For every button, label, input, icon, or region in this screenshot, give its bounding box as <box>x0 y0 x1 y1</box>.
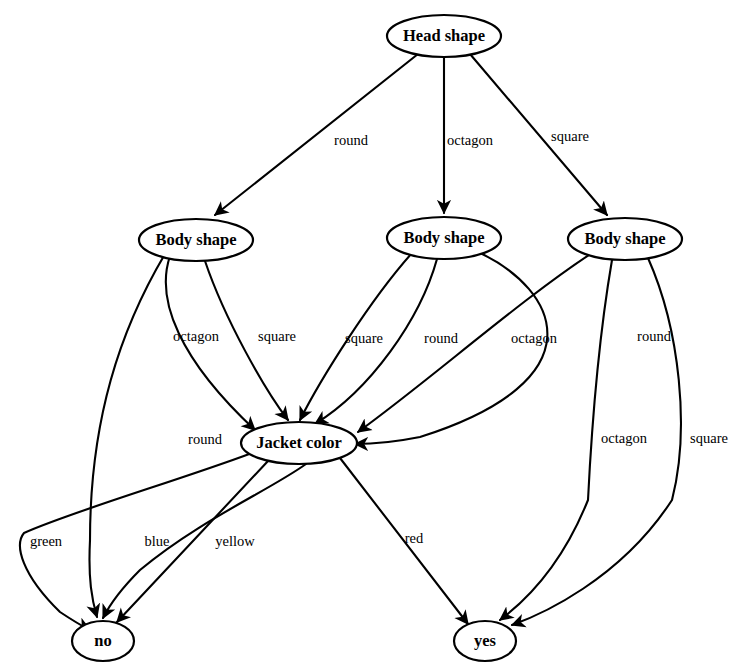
edge-body-mid-jacket-octagon <box>355 252 547 444</box>
edge-label-body-right-square: square <box>690 430 728 446</box>
edge-label-head-round: round <box>334 132 369 148</box>
node-no-label: no <box>94 631 111 650</box>
decision-tree-diagram: round octagon square round octagon squar… <box>0 0 744 671</box>
node-body-shape-left[interactable]: Body shape <box>139 219 253 261</box>
edge-label-jacket-blue: blue <box>145 533 170 549</box>
diagram-canvas: round octagon square round octagon squar… <box>0 0 744 671</box>
edge-label-head-square: square <box>551 128 589 144</box>
edge-label-body-left-octagon: octagon <box>173 328 220 344</box>
node-body-shape-left-label: Body shape <box>155 230 236 249</box>
node-jacket-color-label: Jacket color <box>256 433 342 452</box>
edge-label-body-left-square: square <box>258 328 296 344</box>
edge-label-body-mid-octagon: octagon <box>511 330 558 346</box>
edge-jacket-no-blue <box>103 464 306 618</box>
node-head-shape-label: Head shape <box>403 26 485 45</box>
edge-label-jacket-red: red <box>405 530 424 546</box>
node-head-shape[interactable]: Head shape <box>387 15 501 57</box>
edge-head-body-left <box>215 54 418 215</box>
node-no[interactable]: no <box>72 621 134 661</box>
edge-body-right-yes-square <box>512 258 681 625</box>
node-body-shape-right-label: Body shape <box>584 229 665 248</box>
node-yes-label: yes <box>474 631 497 650</box>
edge-label-jacket-green: green <box>30 533 63 549</box>
edge-label-jacket-yellow: yellow <box>215 533 255 549</box>
edge-body-right-yes-octagon <box>500 260 612 620</box>
edge-label-body-mid-round: round <box>424 330 459 346</box>
node-jacket-color[interactable]: Jacket color <box>241 422 357 464</box>
edge-label-body-left-round: round <box>188 431 223 447</box>
edge-label-body-mid-square: square <box>345 330 383 346</box>
node-yes[interactable]: yes <box>454 621 516 661</box>
node-body-shape-mid-label: Body shape <box>403 228 484 247</box>
edge-label-body-right-round: round <box>637 328 672 344</box>
node-body-shape-mid[interactable]: Body shape <box>387 217 501 259</box>
edge-body-left-no <box>89 254 165 617</box>
node-body-shape-right[interactable]: Body shape <box>568 218 682 260</box>
edge-label-group: round octagon square round octagon squar… <box>30 128 728 549</box>
edge-label-body-right-octagon: octagon <box>601 430 648 446</box>
edge-label-head-octagon: octagon <box>447 132 494 148</box>
